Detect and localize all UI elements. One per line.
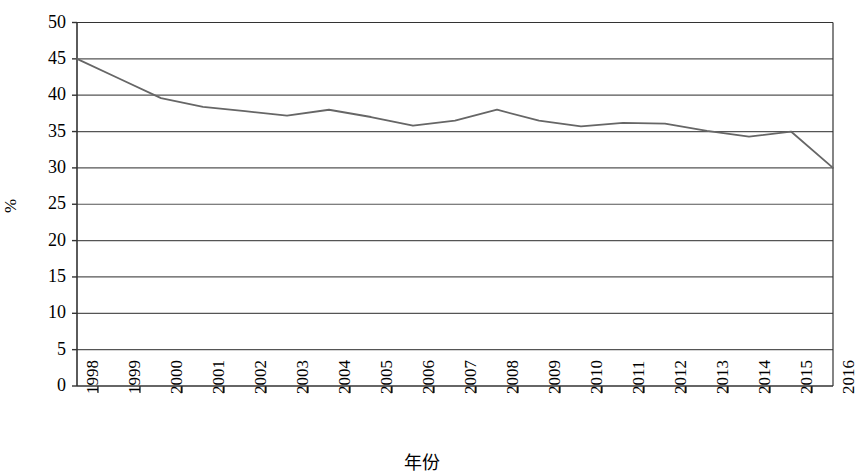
x-tick-label: 2009 [546,360,563,394]
x-tick-label: 2014 [756,360,773,394]
x-tick-label: 2011 [630,361,647,394]
x-tick-label: 2012 [672,360,689,394]
x-tick-label: 2010 [588,360,605,394]
x-tick-label: 2007 [462,360,479,394]
x-tick-label: 2005 [378,360,395,394]
x-tick-label: 2001 [210,360,227,394]
x-tick-label: 2013 [714,360,731,394]
x-tick-label: 2000 [168,360,185,394]
x-tick-label: 2002 [252,360,269,394]
x-tick-label: 2004 [336,360,353,394]
x-axis-title: 年份 [0,448,844,474]
x-tick-label: 2015 [798,360,815,394]
x-tick-label: 2006 [420,360,437,394]
x-tick-label: 2016 [840,360,857,394]
x-tick-label: 1998 [84,360,101,394]
x-tick-label: 2003 [294,360,311,394]
x-tick-label: 1999 [126,360,143,394]
x-tick-label: 2008 [504,360,521,394]
